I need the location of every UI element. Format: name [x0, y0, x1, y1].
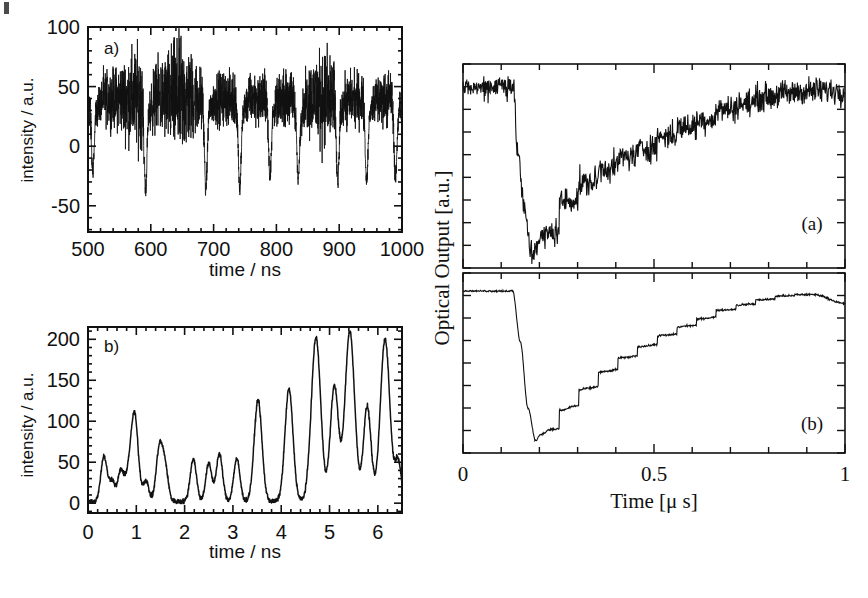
tick-label: 4 — [276, 521, 287, 543]
panel-left-bottom-ylabel: intensity / a.u. — [18, 373, 37, 478]
tick-label: 100 — [47, 16, 80, 38]
tick-label: 0.5 — [641, 462, 667, 486]
tick-label: 50 — [58, 451, 80, 473]
panel-right-bottom: (b) 00.51 Time [μ s] — [458, 273, 851, 513]
tick-label: 1 — [131, 521, 142, 543]
tick-label: 150 — [47, 369, 80, 391]
figure-canvas: 5006007008009001000100500-50 a) time / n… — [0, 0, 868, 598]
panel-left-bottom: 0123456200150100500 b) time / ns intensi… — [18, 327, 402, 562]
panel-left-bottom-frame — [88, 327, 402, 513]
panel-right-top: (a) — [463, 64, 845, 268]
tick-label: 1000 — [380, 238, 425, 260]
tick-label: 0 — [69, 492, 80, 514]
panel-left-top-ylabel: intensity / a.u. — [18, 78, 37, 183]
panel-left-bottom-label: b) — [104, 337, 119, 356]
tick-label: 600 — [134, 238, 167, 260]
four-panel-figure: 5006007008009001000100500-50 a) time / n… — [0, 0, 868, 598]
panel-right-bottom-frame — [463, 273, 845, 453]
panel-right-ylabel: Optical Output [a.u.] — [430, 171, 454, 346]
tick-label: 2 — [179, 521, 190, 543]
panel-right-xlabel: Time [μ s] — [610, 489, 698, 513]
tick-label: 500 — [71, 238, 104, 260]
tick-label: -50 — [51, 195, 80, 217]
tick-label: 200 — [47, 328, 80, 350]
tick-label: 100 — [47, 410, 80, 432]
tick-label: 50 — [58, 76, 80, 98]
tick-label: 0 — [458, 462, 469, 486]
tick-label: 0 — [82, 521, 93, 543]
tick-label: 3 — [227, 521, 238, 543]
tick-label: 700 — [197, 238, 230, 260]
panel-left-top-xlabel: time / ns — [209, 259, 281, 280]
panel-left-bottom-xlabel: time / ns — [209, 541, 281, 562]
tick-label: 900 — [323, 238, 356, 260]
page-edge-artifact — [4, 2, 9, 14]
tick-label: 800 — [260, 238, 293, 260]
tick-label: 0 — [69, 135, 80, 157]
panel-left-top-label: a) — [104, 39, 119, 58]
panel-left-top: 5006007008009001000100500-50 a) time / n… — [18, 16, 424, 280]
panel-right-xtick-labels: 00.51 — [458, 462, 851, 486]
tick-label: 6 — [372, 521, 383, 543]
panel-right-top-label: (a) — [801, 213, 822, 235]
tick-label: 5 — [324, 521, 335, 543]
tick-label: 1 — [840, 462, 851, 486]
panel-right-bottom-label: (b) — [801, 413, 823, 435]
